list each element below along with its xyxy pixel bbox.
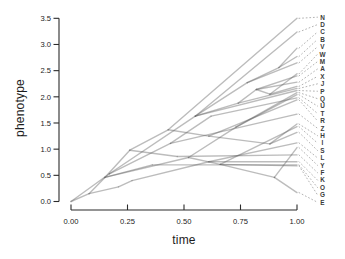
- plot-canvas: NDCBVWMAXJPQUTRZHISLYFKOGE0.00.51.01.52.…: [0, 0, 345, 259]
- tip-label-J: J: [321, 80, 325, 87]
- y-axis-title: phenotype: [13, 61, 27, 155]
- tip-connector-dotted-line: [299, 47, 318, 63]
- y-tick-label-1.0: 1.0: [40, 145, 51, 154]
- tip-label-W: W: [319, 51, 326, 58]
- branch-line: [105, 150, 130, 177]
- tip-label-O: O: [320, 184, 325, 191]
- y-tick-label-0.5: 0.5: [40, 171, 51, 180]
- tip-label-I: I: [322, 139, 324, 146]
- tip-connector-dotted-line: [299, 155, 318, 173]
- branch-line: [177, 155, 297, 157]
- tip-label-K: K: [320, 176, 325, 183]
- tip-label-T: T: [321, 110, 325, 117]
- tip-label-M: M: [320, 58, 325, 65]
- y-tick-label-0.0: 0.0: [40, 197, 51, 206]
- tip-connector-dotted-line: [299, 76, 318, 86]
- branch-line: [209, 143, 297, 162]
- branch-line: [118, 181, 132, 187]
- tip-label-F: F: [321, 169, 325, 176]
- tip-label-Z: Z: [321, 125, 325, 132]
- tip-label-L: L: [321, 154, 325, 161]
- x-tick-label-0.75: 0.75: [233, 217, 248, 226]
- branch-line: [168, 18, 297, 129]
- branch-line: [105, 165, 152, 178]
- tip-label-C: C: [320, 28, 325, 35]
- y-tick-label-2.0: 2.0: [40, 93, 51, 102]
- tip-connector-dotted-line: [299, 193, 318, 203]
- tip-label-D: D: [320, 21, 325, 28]
- tip-connector-dotted-line: [299, 17, 318, 18]
- tip-connector-dotted-line: [299, 91, 318, 92]
- branch-line: [209, 100, 297, 136]
- tip-connector-dotted-line: [299, 25, 318, 32]
- branch-line: [209, 136, 270, 144]
- tip-label-S: S: [320, 147, 325, 154]
- tip-label-V: V: [320, 43, 325, 50]
- tip-connector-dotted-line: [299, 132, 318, 150]
- tip-label-G: G: [320, 191, 325, 198]
- branch-line: [189, 127, 236, 157]
- tip-label-U: U: [320, 102, 325, 109]
- tip-connector-dotted-line: [299, 165, 318, 188]
- tip-connector-dotted-line: [299, 32, 318, 48]
- tip-connector-dotted-line: [299, 62, 318, 76]
- y-tick-label-1.5: 1.5: [40, 119, 51, 128]
- branch-line: [220, 164, 274, 177]
- y-tick-label-2.5: 2.5: [40, 66, 51, 75]
- tip-label-B: B: [320, 36, 325, 43]
- tip-label-N: N: [320, 14, 325, 21]
- tip-label-R: R: [320, 117, 325, 124]
- branch-line: [89, 187, 118, 194]
- y-tick-label-3.5: 3.5: [40, 14, 51, 23]
- branch-line: [274, 148, 297, 178]
- x-tick-label-0.00: 0.00: [64, 217, 79, 226]
- tip-label-X: X: [320, 73, 325, 80]
- tip-connector-dotted-line: [299, 39, 318, 56]
- branch-line: [256, 89, 270, 94]
- tip-connector-dotted-line: [299, 93, 318, 99]
- tip-connector-dotted-line: [299, 54, 318, 74]
- x-tick-label-0.25: 0.25: [120, 217, 135, 226]
- tip-label-P: P: [320, 88, 325, 95]
- tip-connector-dotted-line: [299, 124, 318, 136]
- y-tick-label-3.0: 3.0: [40, 40, 51, 49]
- branch-line: [274, 177, 297, 192]
- traitgram-figure: NDCBVWMAXJPQUTRZHISLYFKOGE0.00.51.01.52.…: [0, 0, 345, 259]
- tip-connector-dotted-line: [299, 100, 318, 121]
- tip-connector-dotted-line: [299, 162, 318, 180]
- x-tick-label-0.50: 0.50: [177, 217, 192, 226]
- tip-label-Y: Y: [320, 162, 325, 169]
- tip-label-E: E: [320, 199, 325, 206]
- tip-label-A: A: [320, 65, 325, 72]
- tip-label-H: H: [320, 132, 325, 139]
- x-tick-label-1.00: 1.00: [290, 217, 305, 226]
- x-axis-title: time: [144, 233, 224, 247]
